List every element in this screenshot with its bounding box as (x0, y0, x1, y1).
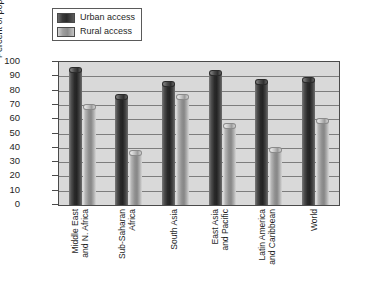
bar-rural (223, 123, 236, 205)
bar-cap-ellipse-icon (316, 118, 329, 124)
y-tick-label-90: 90 (0, 70, 20, 79)
x-tick-label-line: Africa (128, 209, 137, 231)
bar-urban (115, 94, 128, 205)
legend-label-urban: Urban access (80, 13, 135, 22)
bar-urban (302, 77, 315, 205)
bar-cap-ellipse-icon (176, 94, 189, 100)
bar-cap-ellipse-icon (83, 104, 96, 110)
bar-urban (69, 67, 82, 205)
bar-group (106, 62, 153, 205)
bar-cap-ellipse-icon (69, 67, 82, 73)
bar-shaft (269, 150, 282, 205)
x-tick-label: South Asia (170, 209, 179, 250)
bar-shaft (83, 107, 96, 205)
bar-shaft (176, 97, 189, 205)
bar-group (152, 62, 199, 205)
x-tick-label-line: and Caribbean (268, 209, 277, 265)
x-tick-label: Middle Eastand N. Africa (71, 209, 90, 258)
bar-group (59, 62, 106, 205)
chart-legend: Urban access Rural access (52, 8, 142, 41)
x-tick-label-line: and Pacific (221, 209, 230, 251)
legend-item-rural: Rural access (57, 26, 135, 37)
bar-shaft (209, 73, 222, 205)
bar-rural (269, 147, 282, 205)
y-tick-label-40: 40 (0, 142, 20, 151)
x-tick-label: Sub-SaharanAfrica (118, 209, 137, 259)
bar-shaft (115, 97, 128, 205)
bar-shaft (255, 82, 268, 205)
y-tick-label-60: 60 (0, 113, 20, 122)
y-tick-label-0: 0 (0, 199, 20, 208)
y-axis-title: Percent of population (0, 0, 4, 58)
x-tick-label-line: East Asia (211, 209, 220, 244)
bar-cap-ellipse-icon (302, 77, 315, 83)
bar-cap-ellipse-icon (115, 94, 128, 100)
bar-rural (83, 104, 96, 205)
x-tick-label-line: South Asia (170, 209, 179, 250)
bar-cap-ellipse-icon (255, 79, 268, 85)
bar-shaft (302, 80, 315, 205)
bar-cap-ellipse-icon (223, 123, 236, 129)
bar-urban (162, 81, 175, 205)
x-tick-label: World (310, 209, 319, 231)
bar-shaft (129, 153, 142, 205)
legend-swatch-urban-icon (57, 13, 75, 23)
bar-shaft (223, 126, 236, 205)
x-tick-label-line: Latin America (258, 209, 267, 261)
bar-rural (129, 150, 142, 205)
x-tick-label: Latin Americaand Caribbean (258, 209, 277, 265)
x-tick-label-line: Sub-Saharan (118, 209, 127, 259)
bar-cap-ellipse-icon (269, 147, 282, 153)
bar-urban (209, 70, 222, 205)
x-axis-labels: Middle Eastand N. AfricaSub-SaharanAfric… (59, 209, 339, 281)
legend-swatch-rural-icon (57, 27, 75, 37)
bar-rural (316, 118, 329, 205)
bar-cap-ellipse-icon (209, 70, 222, 76)
y-tick-label-70: 70 (0, 99, 20, 108)
y-tick-label-20: 20 (0, 170, 20, 179)
bar-cap-ellipse-icon (162, 81, 175, 87)
bar-urban (255, 79, 268, 205)
legend-label-rural: Rural access (80, 27, 132, 36)
x-tick-label-line: World (310, 209, 319, 231)
bar-group (292, 62, 339, 205)
y-tick-label-80: 80 (0, 85, 20, 94)
bar-group (246, 62, 293, 205)
y-tick-label-100: 100 (0, 56, 20, 65)
x-tick-label: East Asiaand Pacific (211, 209, 230, 251)
bar-shaft (316, 121, 329, 205)
bar-cap-ellipse-icon (129, 150, 142, 156)
bar-group (199, 62, 246, 205)
bar-shaft (69, 70, 82, 205)
y-tick-label-50: 50 (0, 128, 20, 137)
y-tick-label-10: 10 (0, 185, 20, 194)
x-tick-label-line: Middle East (71, 209, 80, 253)
bar-groups (59, 62, 339, 205)
bar-rural (176, 94, 189, 205)
legend-item-urban: Urban access (57, 12, 135, 23)
x-tick-label-line: and N. Africa (81, 209, 90, 258)
y-tick-label-30: 30 (0, 156, 20, 165)
bar-shaft (162, 84, 175, 205)
figure-container: Urban access Rural access Percent of pop… (0, 0, 365, 290)
